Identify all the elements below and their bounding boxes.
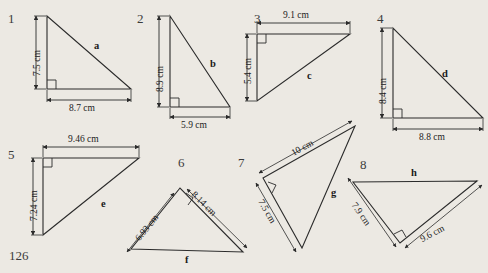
figure-5-hypotenuse-label: e xyxy=(101,199,106,210)
figure-number-5: 5 xyxy=(8,148,15,161)
figure-5-triangle xyxy=(31,145,139,235)
figure-1-vertical-label: 7.5 cm xyxy=(33,50,43,76)
figure-2-hypotenuse-label: b xyxy=(210,59,216,70)
figure-number-3: 3 xyxy=(254,12,261,25)
figure-3-vertical-label: 5.4 cm xyxy=(244,58,254,84)
page-number: 126 xyxy=(9,249,29,262)
figure-8-hypotenuse-label: h xyxy=(411,168,417,179)
figure-5-horizontal-label: 9.46 cm xyxy=(68,135,99,145)
worksheet-page: 1 2 3 4 5 6 7 8 7.5 cm 8.7 cm a 8.9 cm 5… xyxy=(0,0,488,273)
figure-3-horizontal-label: 9.1 cm xyxy=(283,11,309,21)
figure-1-hypotenuse-label: a xyxy=(94,41,99,52)
figure-number-8: 8 xyxy=(360,158,367,171)
figure-number-6: 6 xyxy=(178,156,185,169)
figure-number-4: 4 xyxy=(377,12,384,25)
figure-number-2: 2 xyxy=(137,12,144,25)
figure-2-vertical-label: 8.9 cm xyxy=(156,66,166,92)
figure-3-hypotenuse-label: c xyxy=(307,71,312,82)
figure-3-triangle xyxy=(245,21,350,101)
figure-4-hypotenuse-label: d xyxy=(442,69,448,80)
figure-1-triangle xyxy=(34,16,131,102)
figure-2-horizontal-label: 5.9 cm xyxy=(181,121,207,131)
figure-4-vertical-label: 8.4 cm xyxy=(379,78,389,104)
figure-6-hypotenuse-label: f xyxy=(185,255,189,266)
figure-number-7: 7 xyxy=(238,156,245,169)
figure-4-triangle xyxy=(380,28,483,131)
figure-8-triangle xyxy=(348,178,482,248)
figure-number-1: 1 xyxy=(8,12,15,25)
figure-7-hypotenuse-label: g xyxy=(331,188,336,199)
figure-4-horizontal-label: 8.8 cm xyxy=(419,133,445,143)
figure-2-triangle xyxy=(157,16,230,119)
figure-5-vertical-label: 7.24 cm xyxy=(30,190,40,221)
figure-1-horizontal-label: 8.7 cm xyxy=(69,104,95,114)
